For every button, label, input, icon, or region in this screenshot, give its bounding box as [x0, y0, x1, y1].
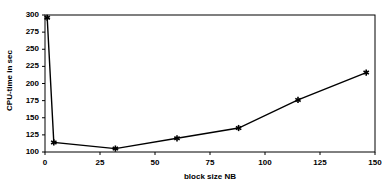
- plot-area: [0, 0, 385, 193]
- series-markers-cpu-time: [45, 15, 369, 152]
- data-point-marker: [295, 97, 300, 103]
- cpu-time-line-chart: CPU-time in sec 100125150175200225250275…: [0, 0, 385, 193]
- data-point-marker: [364, 69, 369, 75]
- series-line-cpu-time: [47, 18, 366, 149]
- plot-frame: [45, 15, 375, 152]
